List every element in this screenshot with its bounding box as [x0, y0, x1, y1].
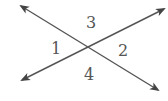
intersecting-lines-diagram: 1 2 3 4: [0, 0, 168, 101]
angle-label-4: 4: [84, 65, 94, 84]
angle-label-1: 1: [51, 39, 61, 58]
angle-label-2: 2: [118, 41, 128, 60]
angle-label-3: 3: [86, 13, 96, 32]
